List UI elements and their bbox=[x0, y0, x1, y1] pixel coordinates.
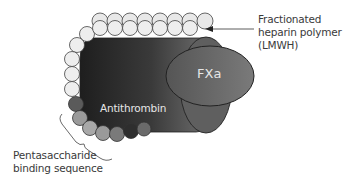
antithrombin-label: Antithrombin bbox=[100, 102, 166, 114]
pentasaccharide-label: Pentasaccharide binding sequence bbox=[13, 149, 103, 175]
heparin-label-line-1: Fractionated bbox=[258, 13, 342, 26]
heparin-label-line-3: (LMWH) bbox=[258, 39, 342, 52]
penta-label-line-1: Pentasaccharide bbox=[13, 149, 103, 162]
diagram-canvas: Fractionated heparin polymer (LMWH) Pent… bbox=[0, 0, 347, 182]
penta-label-line-2: binding sequence bbox=[13, 162, 103, 175]
fxa-label: FXa bbox=[197, 66, 221, 81]
heparin-label-line-2: heparin polymer bbox=[258, 26, 342, 39]
heparin-polymer-label: Fractionated heparin polymer (LMWH) bbox=[258, 13, 342, 52]
